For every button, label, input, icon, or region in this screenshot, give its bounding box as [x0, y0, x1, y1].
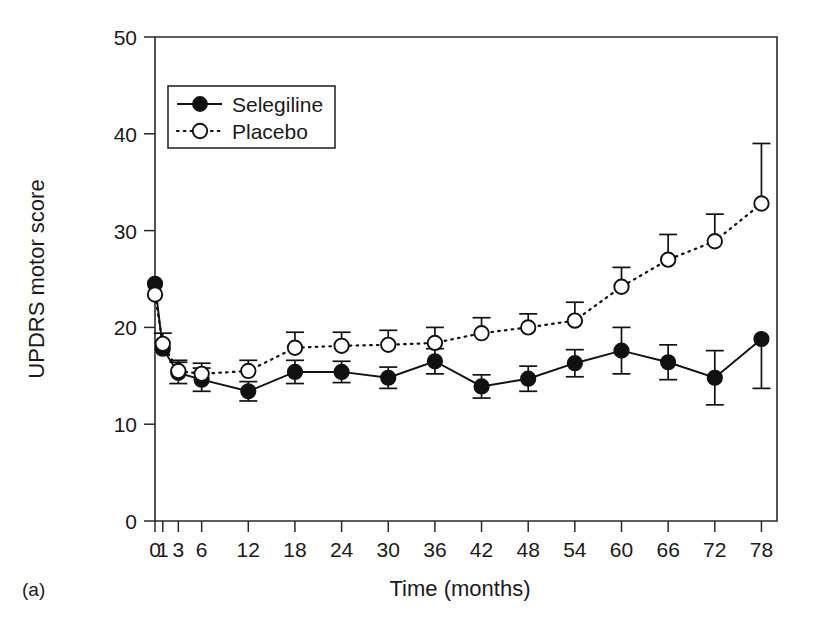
- data-point: [286, 332, 304, 355]
- marker-filled-circle: [521, 371, 536, 386]
- x-tick-label: 78: [750, 538, 773, 561]
- x-tick-label: 36: [423, 538, 446, 561]
- panel-label: (a): [22, 579, 45, 600]
- x-tick-label: 1: [157, 538, 169, 561]
- data-point: [659, 234, 677, 266]
- x-tick-label: 48: [517, 538, 540, 561]
- x-tick-label: 12: [237, 538, 260, 561]
- data-point: [286, 360, 304, 383]
- marker-open-circle: [148, 287, 162, 301]
- y-tick-label: 10: [114, 413, 137, 436]
- y-tick-label: 20: [114, 316, 137, 339]
- data-point: [613, 267, 631, 294]
- data-point: [148, 287, 162, 301]
- legend-marker-filled-circle: [193, 97, 207, 111]
- marker-filled-circle: [428, 354, 443, 369]
- x-tick-label: 42: [470, 538, 493, 561]
- x-tick-label: 60: [610, 538, 633, 561]
- x-tick-label: 6: [196, 538, 208, 561]
- marker-filled-circle: [614, 343, 629, 358]
- marker-open-circle: [521, 320, 535, 334]
- marker-filled-circle: [288, 365, 303, 380]
- y-tick-label: 40: [114, 123, 137, 146]
- marker-filled-circle: [567, 356, 582, 371]
- data-point: [379, 367, 397, 388]
- marker-filled-circle: [381, 370, 396, 385]
- marker-filled-circle: [754, 332, 769, 347]
- legend-label-selegiline: Selegiline: [232, 93, 323, 116]
- data-point: [333, 361, 351, 382]
- marker-open-circle: [754, 196, 768, 210]
- marker-filled-circle: [661, 355, 676, 370]
- marker-open-circle: [381, 338, 395, 352]
- data-point: [239, 382, 257, 401]
- data-point: [473, 375, 491, 398]
- data-point: [519, 366, 537, 391]
- series-layer: [148, 143, 771, 404]
- series-line-dotted: [155, 204, 761, 374]
- marker-filled-circle: [241, 384, 256, 399]
- data-point: [239, 360, 257, 378]
- marker-filled-circle: [707, 370, 722, 385]
- marker-open-circle: [708, 234, 722, 248]
- data-point: [659, 345, 677, 380]
- data-point: [706, 214, 724, 248]
- marker-open-circle: [474, 326, 488, 340]
- marker-open-circle: [171, 364, 185, 378]
- data-point: [613, 327, 631, 373]
- data-point: [473, 318, 491, 341]
- marker-open-circle: [568, 313, 582, 327]
- marker-open-circle: [194, 367, 208, 381]
- legend: Selegiline Placebo: [168, 86, 335, 148]
- data-point: [706, 351, 724, 405]
- x-tick-label: 72: [703, 538, 726, 561]
- x-axis-title: Time (months): [390, 576, 531, 601]
- x-tick-label: 30: [377, 538, 400, 561]
- marker-open-circle: [428, 336, 442, 350]
- data-point: [379, 330, 397, 352]
- series-selegiline: [148, 276, 771, 404]
- marker-open-circle: [661, 252, 675, 266]
- marker-open-circle: [614, 280, 628, 294]
- y-tick-label: 30: [114, 220, 137, 243]
- x-axis-ticks: 0136121824303642485460667278: [149, 521, 773, 561]
- y-tick-label: 0: [125, 510, 137, 533]
- data-point: [566, 302, 584, 328]
- updrs-motor-score-chart: 01020304050 0136121824303642485460667278…: [0, 0, 819, 640]
- legend-label-placebo: Placebo: [232, 120, 308, 143]
- data-point: [752, 332, 770, 389]
- data-point: [426, 327, 444, 350]
- marker-filled-circle: [474, 379, 489, 394]
- x-tick-label: 3: [172, 538, 184, 561]
- data-point: [566, 350, 584, 377]
- data-point: [154, 333, 172, 351]
- marker-open-circle: [241, 364, 255, 378]
- marker-filled-circle: [334, 365, 349, 380]
- x-tick-label: 66: [656, 538, 679, 561]
- x-tick-label: 18: [283, 538, 306, 561]
- marker-open-circle: [288, 341, 302, 355]
- marker-open-circle: [156, 337, 170, 351]
- data-point: [193, 363, 211, 381]
- marker-open-circle: [334, 339, 348, 353]
- y-axis-title: UPDRS motor score: [24, 179, 49, 378]
- data-point: [519, 314, 537, 335]
- y-tick-label: 50: [114, 26, 137, 49]
- data-point: [333, 332, 351, 353]
- x-tick-label: 54: [563, 538, 587, 561]
- legend-marker-open-circle: [193, 124, 207, 138]
- x-tick-label: 24: [330, 538, 354, 561]
- data-point: [426, 349, 444, 374]
- figure-panel: 01020304050 0136121824303642485460667278…: [0, 0, 819, 640]
- data-point: [752, 143, 770, 210]
